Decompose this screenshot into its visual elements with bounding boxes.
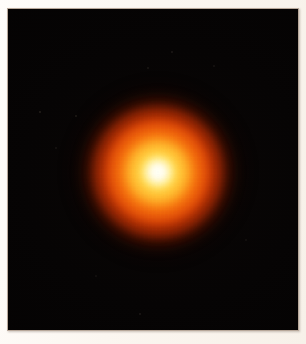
deep-space-background bbox=[8, 9, 298, 330]
background-speck bbox=[171, 51, 173, 53]
background-speck bbox=[147, 67, 149, 69]
background-speck bbox=[213, 65, 215, 67]
background-speck bbox=[139, 313, 141, 315]
background-speck bbox=[75, 115, 77, 117]
background-speck bbox=[245, 239, 247, 241]
background-speck bbox=[55, 147, 57, 149]
sky-plate bbox=[8, 9, 298, 330]
background-speck bbox=[95, 275, 97, 277]
photo-frame bbox=[0, 0, 306, 344]
background-speck bbox=[39, 111, 41, 113]
